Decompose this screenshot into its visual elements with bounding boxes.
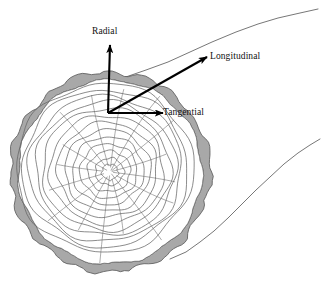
tangential-axis-label: Tangential bbox=[163, 108, 204, 118]
trunk-cross-section-disc bbox=[10, 71, 213, 274]
radial-axis-label: Radial bbox=[92, 27, 117, 37]
figure-canvas bbox=[0, 0, 326, 287]
wood-cross-section-figure: Radial Longitudinal Tangential bbox=[0, 0, 326, 287]
longitudinal-axis-label: Longitudinal bbox=[210, 52, 260, 62]
